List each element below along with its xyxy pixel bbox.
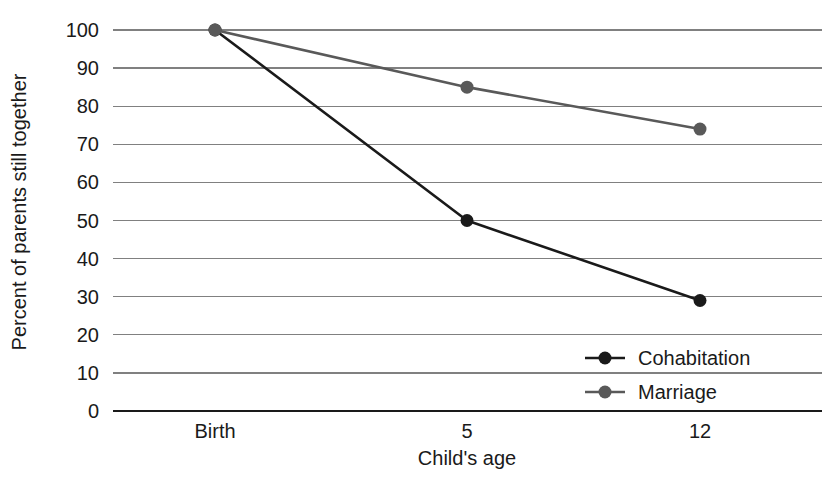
y-tick-label: 50 <box>77 210 99 232</box>
x-tick-label: 12 <box>689 420 711 442</box>
legend-marker-icon <box>599 352 612 365</box>
y-tick-label: 60 <box>77 171 99 193</box>
y-tick-label: 70 <box>77 133 99 155</box>
legend-label: Cohabitation <box>638 347 750 369</box>
x-tick-label: Birth <box>194 420 235 442</box>
data-point <box>694 294 707 307</box>
legend-label: Marriage <box>638 381 717 403</box>
chart-background <box>0 0 837 498</box>
data-point <box>209 24 222 37</box>
data-point <box>461 81 474 94</box>
y-axis-title: Percent of parents still together <box>8 73 30 350</box>
line-chart: 0102030405060708090100 Birth512 Cohabita… <box>0 0 837 498</box>
y-tick-label: 90 <box>77 57 99 79</box>
y-tick-label: 0 <box>88 400 99 422</box>
y-tick-label: 100 <box>66 19 99 41</box>
y-tick-label: 30 <box>77 286 99 308</box>
chart-container: 0102030405060708090100 Birth512 Cohabita… <box>0 0 837 498</box>
legend-marker-icon <box>599 386 612 399</box>
x-axis-title: Child's age <box>418 447 516 469</box>
y-tick-label: 20 <box>77 324 99 346</box>
y-tick-label: 10 <box>77 362 99 384</box>
data-point <box>461 214 474 227</box>
y-tick-label: 80 <box>77 95 99 117</box>
y-tick-label: 40 <box>77 248 99 270</box>
x-tick-label: 5 <box>461 420 472 442</box>
data-point <box>694 123 707 136</box>
